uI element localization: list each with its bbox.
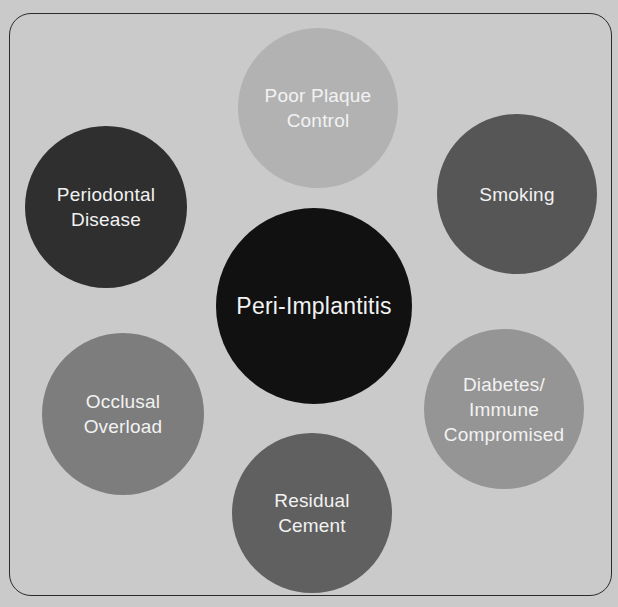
factor-poor-plaque-control: Poor Plaque Control: [238, 28, 398, 188]
factor-occlusal-overload: Occlusal Overload: [42, 333, 204, 495]
factor-smoking: Smoking: [437, 114, 597, 274]
factor-label: Poor Plaque Control: [265, 83, 372, 133]
center-node-peri-implantitis: Peri-Implantitis: [216, 208, 412, 404]
center-label: Peri-Implantitis: [236, 292, 391, 320]
factor-periodontal-disease: Periodontal Disease: [25, 126, 187, 288]
factor-label: Periodontal Disease: [57, 182, 155, 232]
factor-label: Diabetes/ Immune Compromised: [444, 372, 564, 447]
factor-diabetes-immune-compromised: Diabetes/ Immune Compromised: [424, 329, 584, 489]
factor-residual-cement: Residual Cement: [232, 433, 392, 593]
factor-label: Residual Cement: [274, 488, 350, 538]
factor-label: Smoking: [479, 182, 554, 207]
factor-label: Occlusal Overload: [84, 389, 163, 439]
